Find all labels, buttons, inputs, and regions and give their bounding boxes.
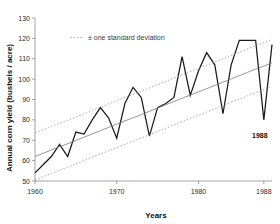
- x-tick-label-1960: 1960: [27, 188, 43, 195]
- x-tick-label-1988: 1988: [256, 188, 272, 195]
- y-tick-label-70: 70: [22, 137, 30, 144]
- x-axis-group: 1960197019801988: [27, 181, 272, 195]
- x-tick-labels: 1960197019801988: [27, 188, 272, 195]
- y-tick-label-100: 100: [18, 76, 30, 83]
- corn-yield-chart: 5060708090100110120130 1960197019801988 …: [0, 0, 280, 224]
- x-tick-marks: [35, 181, 264, 184]
- y-tick-labels: 5060708090100110120130: [18, 15, 30, 185]
- y-tick-label-50: 50: [22, 178, 30, 185]
- y-tick-label-110: 110: [19, 55, 30, 62]
- y-tick-label-120: 120: [18, 35, 30, 42]
- series-paths: [35, 39, 272, 180]
- chart-legend: ± one standard deviation: [70, 34, 165, 41]
- series-one-standard-deviation: [35, 86, 272, 180]
- x-tick-label-1980: 1980: [191, 188, 207, 195]
- y-axis-title: Annual corn yield (bushels / acre): [5, 44, 14, 172]
- series-linear-trend: [35, 63, 272, 157]
- annotation-1988: 1988: [252, 132, 268, 139]
- x-axis-title: Years: [145, 211, 167, 220]
- chart-annotations: 1988: [252, 132, 268, 139]
- y-axis-group: 5060708090100110120130: [18, 15, 35, 185]
- x-tick-label-1970: 1970: [109, 188, 125, 195]
- y-tick-label-60: 60: [22, 157, 30, 164]
- legend-label-sd: ± one standard deviation: [88, 34, 165, 41]
- series-annual-corn-yield: [35, 40, 272, 172]
- y-tick-label-90: 90: [22, 96, 30, 103]
- y-tick-marks: [32, 18, 35, 181]
- y-tick-label-80: 80: [22, 116, 30, 123]
- series-one-standard-deviation: [35, 39, 272, 133]
- chart-canvas: 5060708090100110120130 1960197019801988 …: [0, 0, 280, 224]
- y-tick-label-130: 130: [18, 15, 30, 22]
